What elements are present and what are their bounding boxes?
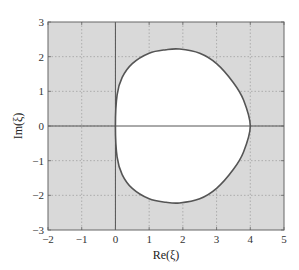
- y-tick-label: 2: [39, 51, 45, 63]
- x-tick-label: 0: [113, 233, 119, 245]
- stability-plot: −2−10123453210−1−2−3Re(ξ)Im(ξ): [0, 0, 299, 270]
- x-tick-label: 2: [180, 233, 186, 245]
- y-tick-label: 1: [39, 85, 45, 97]
- y-tick-label: 3: [39, 16, 45, 28]
- x-tick-label: 4: [248, 233, 254, 245]
- y-tick-label: −2: [32, 189, 44, 201]
- y-tick-label: −3: [32, 224, 44, 236]
- y-tick-label: −1: [32, 155, 44, 167]
- y-axis-label: Im(ξ): [11, 113, 25, 140]
- x-tick-label: −1: [76, 233, 88, 245]
- x-tick-label: 5: [281, 233, 287, 245]
- x-axis-label: Re(ξ): [153, 248, 180, 262]
- x-tick-label: 1: [146, 233, 152, 245]
- x-tick-label: 3: [214, 233, 220, 245]
- y-tick-label: 0: [39, 120, 45, 132]
